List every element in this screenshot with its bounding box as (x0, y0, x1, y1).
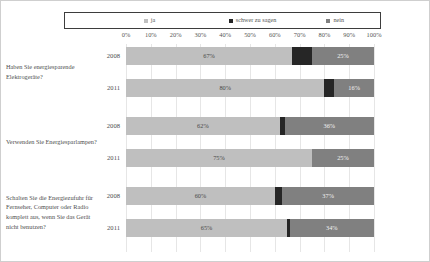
year-label-2008: 2008 (96, 192, 120, 199)
stacked-bar-chart: jaschwer zu sagennein 0%10%20%30%40%50%6… (0, 0, 430, 262)
bar-segment-ja: 65% (126, 219, 287, 237)
bar-segment-ja: 67% (126, 47, 292, 65)
legend-label: nein (333, 17, 344, 23)
bar-segment-schwer-zu-sagen (292, 47, 312, 65)
bar-value-label: 67% (203, 53, 215, 59)
bar-value-label: 75% (213, 155, 225, 161)
bar-value-label: 16% (348, 85, 360, 91)
question-label: Schalten Sie die Energiezufuhr für Ferns… (6, 193, 98, 232)
table-row: 65%34% (126, 219, 374, 237)
legend-item-schwer-zu-sagen: schwer zu sagen (229, 13, 277, 28)
year-label-2011: 2011 (96, 154, 120, 161)
bar-value-label: 34% (326, 225, 338, 231)
x-axis-tick-label: 100% (367, 31, 382, 38)
bar-segment-schwer-zu-sagen (324, 79, 334, 97)
legend-swatch-icon (326, 19, 330, 23)
bar-value-label: 25% (337, 53, 349, 59)
year-label-2011: 2011 (96, 224, 120, 231)
x-axis-tick-label: 90% (343, 31, 355, 38)
x-axis-tick-label: 60% (269, 31, 281, 38)
chart-legend: jaschwer zu sagennein (64, 12, 381, 29)
bar-segment-nein: 34% (290, 219, 374, 237)
bar-value-label: 36% (324, 123, 336, 129)
legend-label: schwer zu sagen (236, 17, 277, 23)
table-row: 80%16% (126, 79, 374, 97)
table-row: 67%25% (126, 47, 374, 65)
gridline (374, 44, 375, 252)
bar-segment-ja: 60% (126, 187, 275, 205)
year-label-2008: 2008 (96, 122, 120, 129)
frame-left-border (0, 0, 1, 262)
legend-swatch-icon (229, 19, 233, 23)
x-axis-tick-label: 20% (170, 31, 182, 38)
x-axis-tick-label: 80% (319, 31, 331, 38)
bar-segment-nein: 16% (334, 79, 374, 97)
year-label-2011: 2011 (96, 84, 120, 91)
legend-items: jaschwer zu sagennein (65, 13, 380, 28)
x-axis-tick-label: 40% (219, 31, 231, 38)
legend-item-nein: nein (326, 13, 344, 28)
question-label: Verwenden Sie Energiesparlampen? (6, 137, 98, 147)
legend-item-ja: ja (144, 13, 155, 28)
x-axis-tick-label: 10% (145, 31, 157, 38)
legend-swatch-icon (144, 19, 148, 23)
bar-segment-schwer-zu-sagen (275, 187, 282, 205)
x-axis-ticks: 0%10%20%30%40%50%60%70%80%90%100% (126, 31, 374, 42)
frame-top-border (0, 0, 430, 1)
bar-value-label: 37% (322, 193, 334, 199)
bar-value-label: 25% (337, 155, 349, 161)
x-axis-tick-label: 0% (122, 31, 131, 38)
bar-value-label: 65% (201, 225, 213, 231)
x-axis-tick-label: 30% (195, 31, 207, 38)
x-axis-tick-label: 70% (294, 31, 306, 38)
bar-segment-ja: 80% (126, 79, 324, 97)
bar-value-label: 60% (195, 193, 207, 199)
question-label: Haben Sie energiesparende Elektrogeräte? (6, 62, 98, 82)
bar-segment-nein: 25% (312, 47, 374, 65)
table-row: 60%37% (126, 187, 374, 205)
year-label-2008: 2008 (96, 52, 120, 59)
bar-segment-nein: 36% (285, 117, 374, 135)
table-row: 62%36% (126, 117, 374, 135)
bar-segment-ja: 62% (126, 117, 280, 135)
bar-value-label: 62% (197, 123, 209, 129)
bar-segment-ja: 75% (126, 149, 312, 167)
bar-value-label: 80% (219, 85, 231, 91)
table-row: 75%25% (126, 149, 374, 167)
bar-segment-nein: 37% (282, 187, 374, 205)
legend-label: ja (151, 17, 155, 23)
x-axis-tick-label: 50% (244, 31, 256, 38)
bar-segment-nein: 25% (312, 149, 374, 167)
